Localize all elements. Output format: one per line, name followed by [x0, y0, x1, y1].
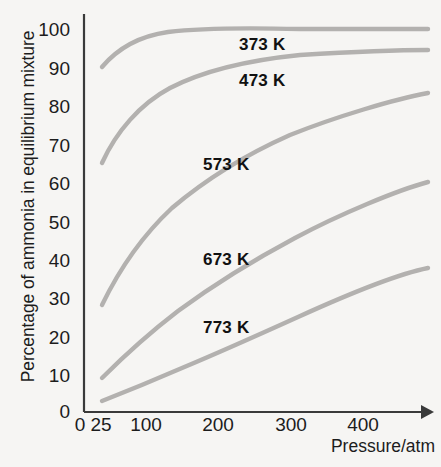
curve-label-373k: 373 K — [239, 35, 285, 55]
x-axis-arrow-icon — [421, 405, 434, 419]
curve-label-673k: 673 K — [203, 250, 249, 270]
x-axis-title: Pressure/atm — [331, 436, 435, 457]
curve-label-573k: 573 K — [203, 155, 249, 175]
chart-figure: Percentage of ammonia in equilibrium mix… — [0, 0, 441, 467]
curve-label-473k: 473 K — [239, 71, 285, 91]
plot-area — [0, 0, 441, 467]
curve-label-773k: 773 K — [203, 318, 249, 338]
curve-673k — [102, 182, 428, 378]
